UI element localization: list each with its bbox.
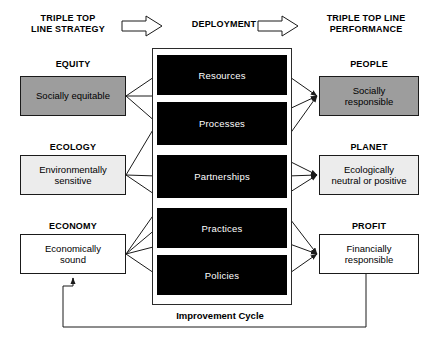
- core-block-resources: Resources: [157, 55, 287, 95]
- header-performance: TRIPLE TOP LINE PERFORMANCE: [310, 13, 422, 35]
- improvement-cycle-label: Improvement Cycle: [160, 310, 280, 321]
- arrow-strategy-to-deployment: [122, 16, 162, 36]
- box-environmentally-sensitive: Environmentally sensitive: [20, 155, 126, 195]
- header-strategy: TRIPLE TOP LINE STRATEGY: [14, 13, 122, 35]
- category-label-people: PEOPLE: [319, 59, 419, 69]
- category-label-economy: ECONOMY: [20, 221, 126, 231]
- category-label-profit: PROFIT: [319, 221, 419, 231]
- box-financially-responsible: Financially responsible: [319, 234, 419, 274]
- box-ecologically-neutral-or-positive: Ecologically neutral or positive: [319, 155, 419, 195]
- box-socially-equitable: Socially equitable: [20, 76, 126, 116]
- box-economically-sound: Economically sound: [20, 234, 126, 274]
- core-block-partnerships: Partnerships: [157, 155, 287, 198]
- core-block-policies: Policies: [157, 255, 287, 295]
- triple-top-line-diagram: TRIPLE TOP LINE STRATEGY DEPLOYMENT TRIP…: [0, 0, 427, 342]
- category-label-equity: EQUITY: [20, 59, 126, 69]
- category-label-ecology: ECOLOGY: [20, 142, 126, 152]
- category-label-planet: PLANET: [319, 142, 419, 152]
- core-block-practices: Practices: [157, 208, 287, 248]
- header-deployment: DEPLOYMENT: [176, 19, 272, 30]
- core-block-processes: Processes: [157, 102, 287, 145]
- box-socially-responsible: Socially responsible: [319, 76, 419, 116]
